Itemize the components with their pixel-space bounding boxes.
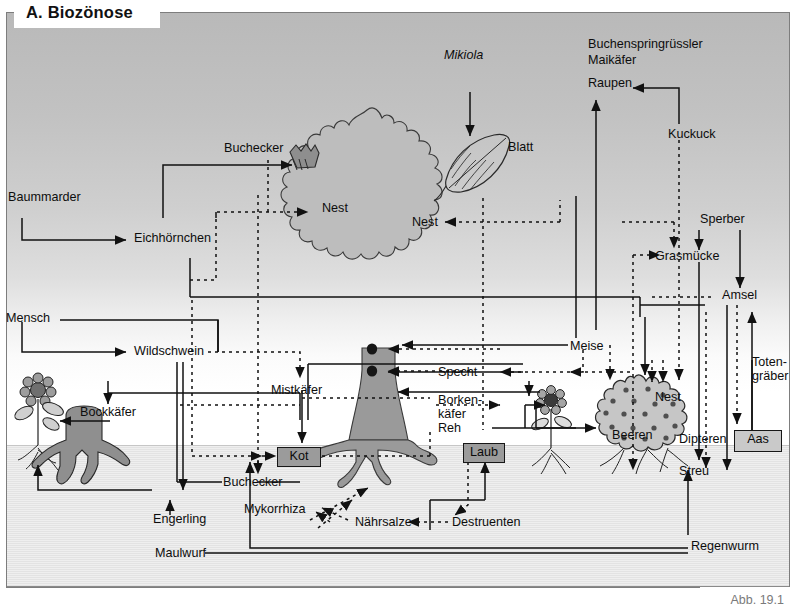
label-nest-left: Nest (322, 201, 348, 215)
label-meise: Meise (570, 339, 604, 353)
label-borkenkaefer-1: Borken- (438, 393, 482, 407)
label-borkenkaefer-2: käfer (438, 407, 466, 421)
box-kot: Kot (277, 447, 321, 467)
label-baummarder: Baummarder (8, 190, 81, 204)
label-kuckuck: Kuckuck (668, 127, 716, 141)
label-destruenten: Destruenten (452, 515, 521, 529)
label-mistkaefer: Mistkäfer (271, 383, 322, 397)
label-wildschwein: Wildschwein (134, 344, 204, 358)
label-raupen: Raupen (588, 76, 632, 90)
label-buchecker-soil: Buchecker (223, 475, 283, 489)
label-grasmuecke: Grasmücke (655, 249, 719, 263)
label-totengraeber-1: Toten- (752, 355, 787, 369)
label-nest-mid: Nest (412, 215, 438, 229)
figure-canvas: A. Biozönose Abb. 19.1 (0, 0, 802, 609)
label-totengraeber-2: gräber (752, 369, 788, 383)
label-specht: Specht (438, 365, 477, 379)
label-mikiola: Mikiola (444, 48, 483, 62)
label-mykorrhiza: Mykorrhiza (244, 502, 306, 516)
label-reh: Reh (438, 421, 461, 435)
box-laub: Laub (463, 443, 505, 463)
label-buchecker-top: Buchecker (224, 141, 284, 155)
label-amsel: Amsel (722, 288, 757, 302)
label-regenwurm: Regenwurm (691, 539, 759, 553)
beech-leaf-icon (434, 134, 510, 201)
label-nest-right: Nest (655, 390, 681, 404)
label-sperber: Sperber (700, 212, 745, 226)
label-naehrsalze: Nährsalze (355, 515, 412, 529)
dotted-links (180, 140, 737, 528)
trunk-hole-lower (367, 365, 377, 376)
label-streu: Streu (679, 464, 709, 478)
trunk-hole-upper (367, 343, 377, 354)
label-bockkaefer: Bockkäfer (80, 405, 136, 419)
label-maulwurf: Maulwurf (155, 546, 206, 560)
label-buchenspringruessler: Buchenspringrüssler (588, 37, 703, 51)
label-engerling: Engerling (153, 512, 206, 526)
label-mensch: Mensch (6, 311, 50, 325)
box-aas: Aas (734, 430, 782, 452)
label-eichhoernchen: Eichhörnchen (134, 231, 211, 245)
label-blatt: Blatt (508, 140, 533, 154)
flower-right-icon (530, 386, 573, 474)
label-maikaefer: Maikäfer (588, 53, 636, 67)
label-dipteren: Dipteren (679, 432, 727, 446)
label-beeren: Beeren (612, 428, 653, 442)
